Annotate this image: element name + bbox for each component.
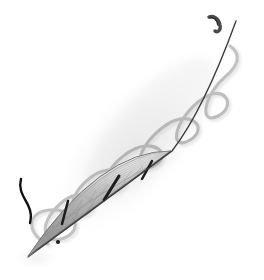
figure-canvas <box>0 0 264 280</box>
medical-device-illustration <box>0 0 264 280</box>
tip-contact-shadow <box>22 254 50 262</box>
proximal-dot-marker <box>56 240 60 244</box>
